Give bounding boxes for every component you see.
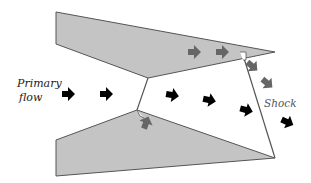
primary-flow-label-line1: Primary xyxy=(16,77,62,90)
primary-arrow-icon xyxy=(165,87,180,103)
primary-arrow-icon xyxy=(62,87,75,101)
shock-label: Shock xyxy=(264,97,297,109)
throat-shock-line xyxy=(137,78,148,110)
primary-arrow-icon xyxy=(238,102,254,119)
upper-wall xyxy=(56,12,275,78)
primary-arrow-icon xyxy=(279,113,297,131)
primary-arrow-icon xyxy=(100,87,113,101)
lower-wall xyxy=(56,110,275,176)
diagram-canvas: Primary flow Shock xyxy=(0,0,311,183)
primary-arrow-icon xyxy=(202,92,218,108)
primary-flow-label-line2: flow xyxy=(18,91,43,104)
secondary-arrow-icon xyxy=(258,74,277,93)
